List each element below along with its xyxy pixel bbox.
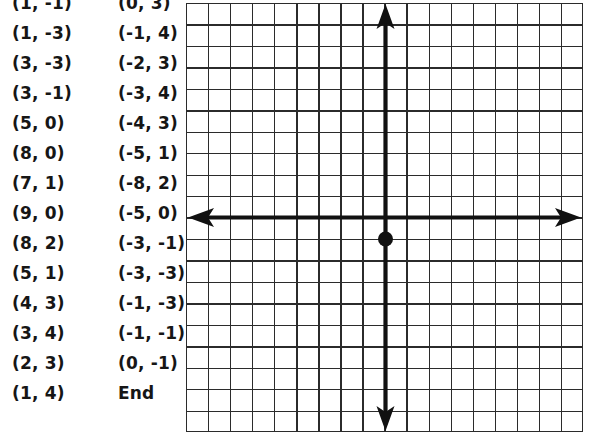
list-item: (1, -1) [12,0,102,18]
coordinate-lists: (1, -1) (1, -3) (3, -3) (3, -1) (5, 0) (… [0,0,186,443]
list-item: (1, -3) [12,18,102,48]
left-coordinate-column: (1, -1) (1, -3) (3, -3) (3, -1) (5, 0) (… [12,0,102,408]
list-item: (3, 4) [12,318,102,348]
list-item: (3, -1) [12,78,102,108]
list-item: (1, 4) [12,378,102,408]
worksheet-page: (1, -1) (1, -3) (3, -3) (3, -1) (5, 0) (… [0,0,593,443]
list-item: (2, 3) [12,348,102,378]
list-item: (8, 2) [12,228,102,258]
list-item: (5, 0) [12,108,102,138]
origin-dot [378,232,393,247]
list-item: (8, 0) [12,138,102,168]
axes-overlay [186,3,583,432]
list-item: (5, 1) [12,258,102,288]
list-item: (4, 3) [12,288,102,318]
list-item: (7, 1) [12,168,102,198]
coordinate-grid [186,3,583,432]
list-item: (3, -3) [12,48,102,78]
list-item: (9, 0) [12,198,102,228]
